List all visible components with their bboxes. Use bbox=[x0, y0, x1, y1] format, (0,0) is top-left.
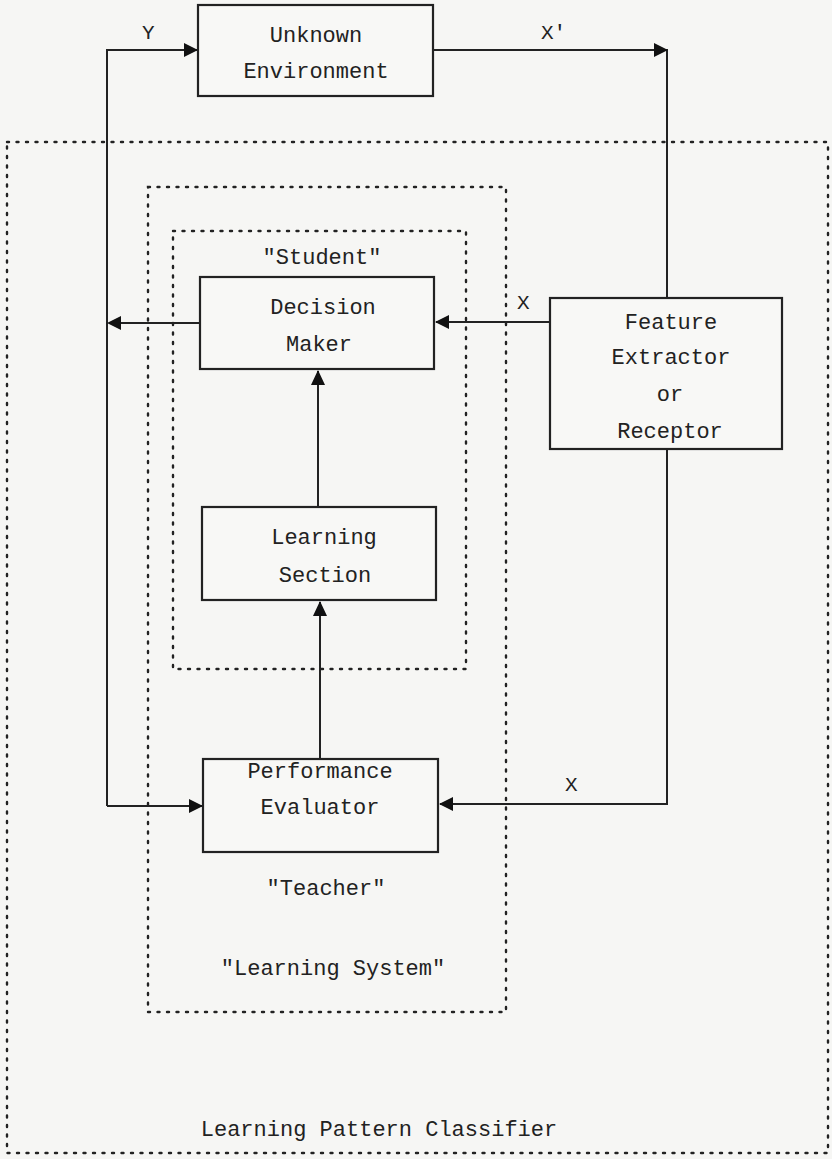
signal-x-evaluator-label: X bbox=[565, 774, 578, 797]
decision-maker-label-2: Maker bbox=[286, 333, 352, 358]
signal-x-prime-label: X' bbox=[541, 22, 566, 45]
feature-extractor-label-2: Extractor bbox=[612, 346, 731, 371]
arrow-x-prime-icon bbox=[654, 43, 668, 57]
arrow-up-to-learning-section-icon bbox=[313, 601, 327, 616]
environment-label-1: Unknown bbox=[270, 24, 362, 49]
arrow-up-to-decision-maker-icon bbox=[311, 370, 325, 385]
environment-label-2: Environment bbox=[243, 60, 388, 85]
classifier-group-label: Learning Pattern Classifier bbox=[201, 1118, 557, 1143]
block-feature-extractor: Feature Extractor or Receptor bbox=[550, 298, 782, 449]
learning-section-label-2: Section bbox=[279, 564, 371, 589]
edge-environment-to-feature-extractor bbox=[433, 50, 667, 298]
student-group-label: "Student" bbox=[263, 246, 382, 271]
arrow-into-decision-maker-icon bbox=[435, 315, 449, 329]
arrow-into-bus-icon bbox=[107, 316, 121, 330]
feature-extractor-label-1: Feature bbox=[625, 311, 717, 336]
feature-extractor-label-3: or bbox=[657, 383, 683, 408]
signal-x-decision-label: X bbox=[517, 292, 530, 315]
arrow-into-evaluator-left-icon bbox=[189, 799, 203, 813]
learning-system-group-label: "Learning System" bbox=[221, 957, 445, 982]
edge-feature-to-evaluator bbox=[440, 449, 667, 804]
block-environment: Unknown Environment bbox=[198, 5, 433, 96]
arrow-into-environment-icon bbox=[184, 43, 198, 57]
performance-evaluator-label-2: Evaluator bbox=[261, 796, 380, 821]
performance-evaluator-label-1: Performance bbox=[247, 760, 392, 785]
teacher-group-label: "Teacher" bbox=[267, 877, 386, 902]
arrow-into-evaluator-right-icon bbox=[439, 797, 453, 811]
signal-y-label: Y bbox=[142, 22, 155, 45]
feature-extractor-label-4: Receptor bbox=[617, 420, 723, 445]
block-learning-section: Learning Section bbox=[202, 507, 436, 600]
learning-pattern-classifier-diagram: Unknown Environment Decision Maker Featu… bbox=[0, 0, 832, 1159]
decision-maker-label-1: Decision bbox=[270, 296, 376, 321]
edge-bus-to-environment bbox=[107, 50, 198, 806]
block-decision-maker: Decision Maker bbox=[200, 277, 434, 369]
block-performance-evaluator: Performance Evaluator bbox=[203, 759, 438, 852]
learning-section-label-1: Learning bbox=[271, 526, 377, 551]
